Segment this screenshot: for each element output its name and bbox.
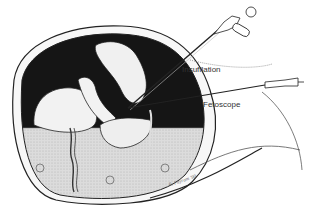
fetoscopy-diagram: Insufflation Fetoscope B. Fayram '90 [0, 0, 322, 210]
fetoscope-label: Fetoscope [203, 100, 240, 109]
insufflation-label: Insufflation [182, 65, 221, 74]
illustration-svg [0, 0, 322, 210]
